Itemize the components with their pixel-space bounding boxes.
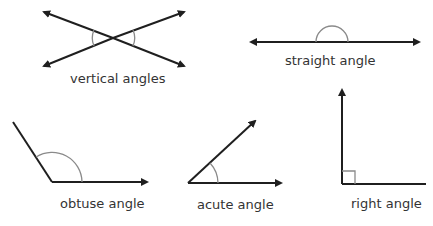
ray-upper: [13, 122, 52, 182]
ray-up-right: [113, 12, 184, 38]
vertical-angles-figure: [44, 12, 184, 66]
ray-upper: [188, 121, 255, 183]
label-vertical-angles: vertical angles: [70, 72, 165, 85]
obtuse-angle-figure: [13, 122, 147, 182]
label-obtuse-angle: obtuse angle: [60, 197, 145, 210]
label-acute-angle: acute angle: [197, 198, 274, 211]
angle-arc: [210, 163, 218, 183]
right-angle-figure: [342, 90, 426, 184]
angle-arc-right: [133, 30, 135, 46]
angle-arc: [316, 26, 348, 42]
ray-down-right: [113, 38, 184, 66]
angle-arc-left: [92, 30, 94, 46]
ray-up-left: [44, 12, 113, 38]
angles-diagram: [0, 0, 433, 226]
label-right-angle: right angle: [351, 197, 422, 210]
right-angle-square: [342, 171, 355, 184]
acute-angle-figure: [188, 121, 281, 183]
straight-angle-figure: [251, 26, 419, 42]
label-straight-angle: straight angle: [285, 54, 376, 67]
ray-down-left: [44, 38, 113, 66]
